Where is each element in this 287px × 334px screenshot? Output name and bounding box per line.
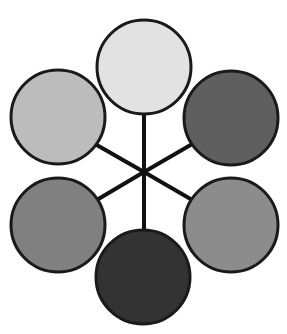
- diagram-canvas: [0, 0, 287, 334]
- node-bottom[interactable]: [96, 230, 190, 324]
- radial-node-diagram: [0, 0, 287, 334]
- node-upper-left[interactable]: [11, 70, 105, 164]
- node-top[interactable]: [97, 20, 191, 114]
- node-lower-right[interactable]: [184, 178, 278, 272]
- node-lower-left[interactable]: [11, 178, 105, 272]
- node-upper-right[interactable]: [184, 71, 278, 165]
